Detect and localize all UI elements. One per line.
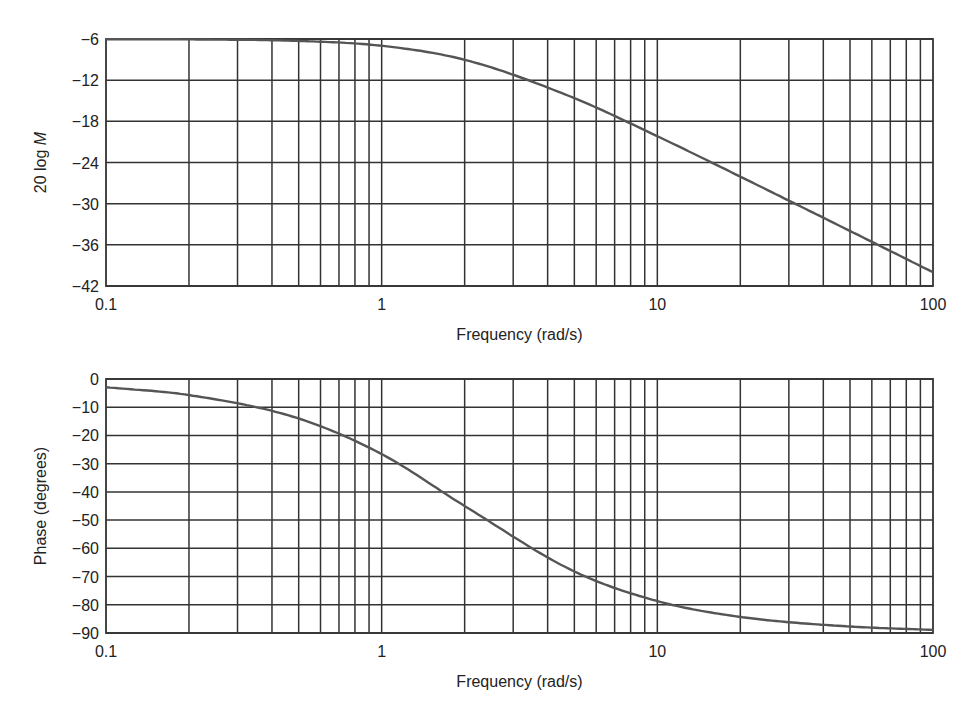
x-tick-labels: 0.1110100 — [95, 643, 947, 660]
y-tick-label: −80 — [72, 597, 99, 614]
y-tick-label: −42 — [72, 278, 99, 295]
x-tick-label: 0.1 — [95, 296, 117, 313]
bode-plot-svg: −6−12−18−24−30−36−420.1110100Frequency (… — [0, 0, 980, 723]
y-tick-label: −90 — [72, 625, 99, 642]
y-tick-label: −20 — [72, 427, 99, 444]
x-axis-label: Frequency (rad/s) — [456, 673, 582, 690]
y-tick-label: −30 — [72, 456, 99, 473]
y-tick-label: −40 — [72, 484, 99, 501]
y-tick-label: −60 — [72, 540, 99, 557]
plot-frame — [106, 379, 933, 633]
phase-curve — [106, 387, 933, 630]
y-tick-labels: −6−12−18−24−30−36−42 — [72, 31, 99, 295]
y-tick-label: −10 — [72, 399, 99, 416]
x-tick-label: 0.1 — [95, 643, 117, 660]
y-tick-label: −24 — [72, 155, 99, 172]
y-tick-label: −6 — [81, 31, 99, 48]
y-tick-label: −12 — [72, 72, 99, 89]
bode-plot-figure: −6−12−18−24−30−36−420.1110100Frequency (… — [0, 0, 980, 723]
y-tick-label: −30 — [72, 196, 99, 213]
y-tick-label: 0 — [90, 371, 99, 388]
y-tick-labels: 0−10−20−30−40−50−60−70−80−90 — [72, 371, 99, 642]
x-tick-labels: 0.1110100 — [95, 296, 947, 313]
x-tick-label: 100 — [920, 296, 947, 313]
y-tick-label: −50 — [72, 512, 99, 529]
magnitude-curve — [106, 39, 933, 272]
y-axis-label: 20 log M — [32, 131, 49, 193]
x-tick-label: 100 — [920, 643, 947, 660]
grid-lines — [106, 379, 933, 633]
y-tick-label: −70 — [72, 569, 99, 586]
y-tick-label: −36 — [72, 237, 99, 254]
phase-plot: 0−10−20−30−40−50−60−70−80−900.1110100Fre… — [32, 371, 946, 690]
magnitude-plot: −6−12−18−24−30−36−420.1110100Frequency (… — [32, 31, 946, 343]
x-axis-label: Frequency (rad/s) — [456, 326, 582, 343]
x-tick-label: 10 — [648, 296, 666, 313]
y-axis-label: Phase (degrees) — [32, 447, 49, 565]
y-tick-label: −18 — [72, 113, 99, 130]
x-tick-label: 1 — [377, 296, 386, 313]
x-tick-label: 10 — [648, 643, 666, 660]
x-tick-label: 1 — [377, 643, 386, 660]
